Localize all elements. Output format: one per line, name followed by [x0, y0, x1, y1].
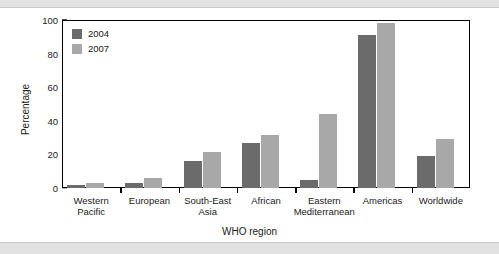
bar-2004-americas[interactable]: [358, 35, 376, 188]
bar-2007-western-pacific[interactable]: [86, 183, 104, 188]
x-axis-tick-mark: [412, 188, 413, 193]
legend-swatch-icon: [72, 44, 82, 54]
bar-2007-south-east-asia[interactable]: [203, 152, 221, 188]
legend-item-label: 2007: [88, 43, 109, 54]
x-axis-tick-mark: [120, 188, 121, 193]
bar-2004-european[interactable]: [125, 183, 143, 188]
bottom-page-band: [0, 243, 499, 254]
x-axis-category-label-line: Asia: [167, 206, 249, 217]
x-axis-tick-mark: [237, 188, 238, 193]
legend-swatch-icon: [72, 29, 82, 39]
y-axis-tick-label: 0: [30, 183, 58, 194]
bar-2004-african[interactable]: [242, 143, 260, 188]
x-axis-category-label-line: Pacific: [50, 206, 132, 217]
x-axis-title: WHO region: [0, 226, 499, 237]
x-axis-category-label-line: Worldwide: [400, 195, 482, 206]
chart-legend: 20042007: [72, 28, 109, 58]
y-axis-tick-label: 100: [30, 15, 58, 26]
bar-chart-figure: Percentage 020406080100 WesternPacificEu…: [0, 8, 499, 242]
x-axis-tick-mark: [179, 188, 180, 193]
bar-2007-americas[interactable]: [377, 23, 395, 188]
y-axis-tick-label: 60: [30, 82, 58, 93]
bar-2007-worldwide[interactable]: [436, 139, 454, 188]
x-axis-category-label-line: Mediterranean: [283, 206, 365, 217]
y-axis-tick-label: 20: [30, 149, 58, 160]
bar-group: [353, 20, 411, 188]
bar-group: [120, 20, 178, 188]
y-axis-tick-label: 80: [30, 48, 58, 59]
bar-2004-south-east-asia[interactable]: [184, 161, 202, 188]
bar-2004-worldwide[interactable]: [417, 156, 435, 188]
bar-2007-eastern-mediterranean[interactable]: [319, 114, 337, 188]
legend-item-label: 2004: [88, 28, 109, 39]
top-page-band: [0, 0, 499, 7]
bar-group: [295, 20, 353, 188]
bar-2007-african[interactable]: [261, 135, 279, 188]
legend-item-2007[interactable]: 2007: [72, 43, 109, 54]
bars-layer: [62, 20, 470, 188]
legend-item-2004[interactable]: 2004: [72, 28, 109, 39]
x-axis-category-label: Worldwide: [400, 195, 482, 206]
y-axis-tick-label: 40: [30, 115, 58, 126]
bar-group: [412, 20, 470, 188]
x-axis-tick-mark: [353, 188, 354, 193]
bar-2004-eastern-mediterranean[interactable]: [300, 180, 318, 188]
bar-group: [179, 20, 237, 188]
bottom-page-band-rule: [0, 242, 499, 243]
bar-group: [237, 20, 295, 188]
bar-2007-european[interactable]: [144, 178, 162, 188]
bar-2004-western-pacific[interactable]: [67, 185, 85, 188]
x-axis-tick-mark: [295, 188, 296, 193]
